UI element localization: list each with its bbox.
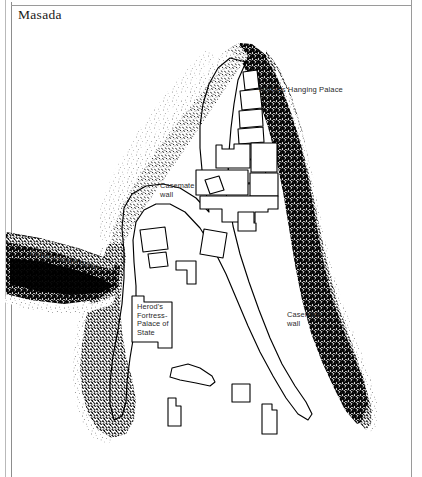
- page-root: Masada: [0, 0, 422, 477]
- map-illustration: [0, 0, 422, 477]
- label-casemate-wall-right: Casemate wall: [287, 311, 321, 328]
- masada-site-map: Herod's Hanging Palace Casemate wall Cas…: [0, 0, 422, 477]
- label-herods-hanging-palace: Herod's Hanging Palace: [259, 86, 343, 95]
- label-herods-fortress-palace-of-state: Herod's Fortress- Palace of State: [137, 303, 169, 337]
- label-casemate-wall-left: Casemate wall: [160, 182, 194, 199]
